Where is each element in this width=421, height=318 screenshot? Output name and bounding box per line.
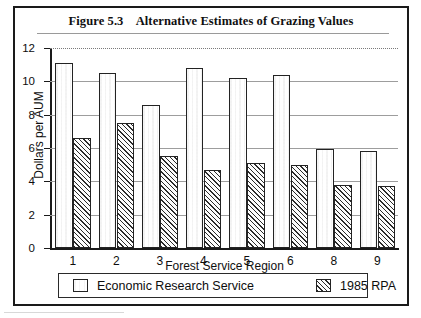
bar-group <box>229 48 265 248</box>
chart-legend: Economic Research Service 1985 RPA <box>58 273 368 298</box>
bar-economic-research-service-region-4 <box>186 68 204 248</box>
legend-swatch-economic-research-service <box>73 279 88 292</box>
legend-item-1985-rpa[interactable]: 1985 RPA <box>316 279 396 293</box>
bar-group <box>360 48 396 248</box>
scan-artifact <box>4 312 124 313</box>
title-divider <box>37 33 389 34</box>
bar-1985-rpa-region-6 <box>291 165 309 248</box>
bar-1985-rpa-region-2 <box>117 123 135 248</box>
y-axis-tick: 2 <box>44 215 50 216</box>
bar-economic-research-service-region-2 <box>99 73 117 248</box>
bar-group <box>142 48 178 248</box>
bar-economic-research-service-region-9 <box>360 151 378 248</box>
y-axis-tick: 12 <box>44 48 50 49</box>
legend-label-1985-rpa: 1985 RPA <box>340 279 396 293</box>
y-axis-tick-label: 2 <box>29 209 35 221</box>
figure-frame: Figure 5.3 Alternative Estimates of Graz… <box>13 6 409 306</box>
bar-1985-rpa-region-1 <box>73 138 91 248</box>
bar-economic-research-service-region-5 <box>229 78 247 248</box>
y-axis-tick: 10 <box>44 81 50 82</box>
x-axis-line <box>50 248 399 250</box>
bars-container: 02468101212345689 <box>50 48 398 248</box>
legend-label-economic-research-service: Economic Research Service <box>97 279 254 293</box>
y-axis-tick-label: 8 <box>29 109 35 121</box>
y-axis-tick: 4 <box>44 181 50 182</box>
bar-group <box>55 48 91 248</box>
bar-economic-research-service-region-1 <box>55 63 73 248</box>
y-axis-tick-label: 0 <box>29 242 35 254</box>
bar-1985-rpa-region-3 <box>160 156 178 248</box>
x-axis-label: Forest Service Region <box>50 259 399 273</box>
bar-group <box>186 48 222 248</box>
y-axis-tick: 8 <box>44 115 50 116</box>
bar-economic-research-service-region-8 <box>316 149 334 248</box>
bar-group <box>316 48 352 248</box>
legend-item-economic-research-service[interactable]: Economic Research Service <box>73 279 254 293</box>
bar-1985-rpa-region-8 <box>334 185 352 248</box>
y-axis-tick-label: 10 <box>22 75 35 87</box>
y-axis-tick-label: 6 <box>29 142 35 154</box>
legend-swatch-1985-rpa <box>316 279 331 292</box>
chart-plot-area: Dollars per AUM 02468101212345689 Forest… <box>15 36 411 268</box>
bar-group <box>99 48 135 248</box>
y-axis-tick: 6 <box>44 148 50 149</box>
figure-title: Figure 5.3 Alternative Estimates of Graz… <box>15 14 407 29</box>
bar-1985-rpa-region-5 <box>247 163 265 248</box>
y-axis-tick-label: 12 <box>22 42 35 54</box>
y-axis-tick-label: 4 <box>29 175 35 187</box>
y-axis-tick: 0 <box>44 248 50 249</box>
bar-group <box>273 48 309 248</box>
bar-economic-research-service-region-3 <box>142 105 160 248</box>
bar-economic-research-service-region-6 <box>273 75 291 248</box>
bar-1985-rpa-region-4 <box>204 170 222 248</box>
bar-1985-rpa-region-9 <box>378 186 396 249</box>
